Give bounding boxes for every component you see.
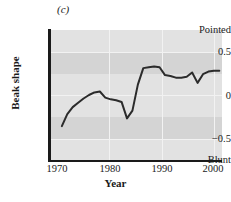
x-tick-1970: 1970 [37,163,77,174]
figure-panel-c: (c) Pointed 0.5 0 −0.5 Blunt 1970 1980 1… [0,0,231,202]
y-tick-pointed: Pointed [184,24,231,35]
x-tick-2000: 2000 [193,163,231,174]
panel-label: (c) [57,3,69,15]
y-axis-title: Beak shape [9,43,21,123]
y-tick-neg-0_5: −0.5 [184,133,231,144]
x-tick-1990: 1990 [142,163,182,174]
x-axis-title: Year [0,177,231,189]
y-tick-0_5: 0.5 [184,46,231,57]
x-tick-1980: 1980 [90,163,130,174]
y-tick-0: 0 [184,90,231,101]
